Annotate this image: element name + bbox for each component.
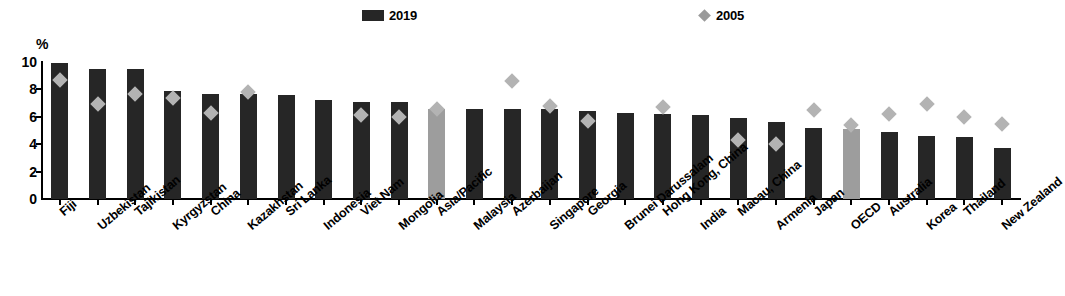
y-axis-tick <box>36 116 41 118</box>
legend-entry-2005: 2005 <box>700 9 744 22</box>
x-axis-tick <box>926 200 928 205</box>
bar <box>956 137 973 199</box>
legend-bar-swatch-icon <box>362 10 384 21</box>
x-axis-tick <box>963 200 965 205</box>
x-axis-tick <box>473 200 475 205</box>
x-axis-tick <box>59 200 61 205</box>
x-axis-tick <box>247 200 249 205</box>
bar <box>240 94 257 199</box>
x-axis-tick <box>549 200 551 205</box>
bar <box>504 109 521 199</box>
x-axis-tick <box>775 200 777 205</box>
legend-label-2019: 2019 <box>389 9 417 22</box>
x-axis-tick <box>172 200 174 205</box>
diamond-marker <box>806 102 822 118</box>
bar <box>89 69 106 199</box>
y-axis-tick <box>36 88 41 90</box>
y-axis-tick <box>36 143 41 145</box>
x-axis-label: Korea <box>924 200 959 233</box>
x-axis-tick <box>360 200 362 205</box>
diamond-marker <box>957 109 973 125</box>
diamond-marker <box>881 106 897 122</box>
y-axis-tick <box>36 171 41 173</box>
chart-legend: 2019 2005 <box>0 6 1027 32</box>
x-axis-label: India <box>698 204 729 233</box>
plot-area <box>41 62 1021 199</box>
diamond-marker <box>655 99 671 115</box>
bar <box>805 128 822 199</box>
bar <box>843 129 860 199</box>
x-axis-tick <box>511 200 513 205</box>
x-axis-tick <box>850 200 852 205</box>
x-axis-tick <box>662 200 664 205</box>
x-axis-tick <box>285 200 287 205</box>
diamond-marker <box>919 97 935 113</box>
legend-diamond-swatch-icon <box>698 9 711 22</box>
diamond-marker <box>504 73 520 89</box>
x-axis-tick <box>323 200 325 205</box>
x-axis-tick <box>737 200 739 205</box>
x-axis-tick <box>813 200 815 205</box>
x-axis-tick <box>700 200 702 205</box>
legend-entry-2019: 2019 <box>362 9 417 22</box>
diamond-marker <box>994 116 1010 132</box>
x-axis-tick <box>210 200 212 205</box>
y-axis-unit-label: % <box>36 36 48 52</box>
bar <box>428 109 445 199</box>
x-axis-tick <box>888 200 890 205</box>
y-axis-label: 10 <box>21 54 37 70</box>
x-axis-tick <box>398 200 400 205</box>
x-axis-tick <box>587 200 589 205</box>
x-axis-tick <box>134 200 136 205</box>
legend-label-2005: 2005 <box>716 9 744 22</box>
y-axis-tick-labels: 0246810 <box>0 62 37 199</box>
y-axis-label: 0 <box>29 191 37 207</box>
bar <box>881 132 898 199</box>
x-axis-tick <box>624 200 626 205</box>
x-axis-label: OECD <box>848 199 884 232</box>
x-axis-tick <box>97 200 99 205</box>
x-axis-tick <box>1001 200 1003 205</box>
x-axis-tick <box>436 200 438 205</box>
